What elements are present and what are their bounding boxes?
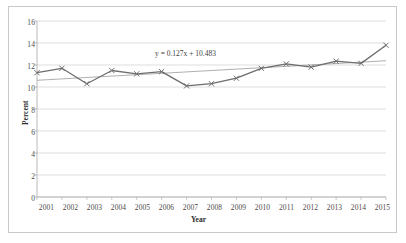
axes-group: [34, 21, 386, 200]
chart-svg: [9, 7, 398, 234]
gridlines-group: [37, 21, 386, 197]
chart-plot-area: 16 14 12 10 8 6 4 2 0 Percent 2001 2002 …: [9, 7, 396, 232]
data-markers-group: [34, 43, 388, 89]
chart-frame: 16 14 12 10 8 6 4 2 0 Percent 2001 2002 …: [8, 6, 397, 233]
data-series-group: [37, 45, 386, 86]
